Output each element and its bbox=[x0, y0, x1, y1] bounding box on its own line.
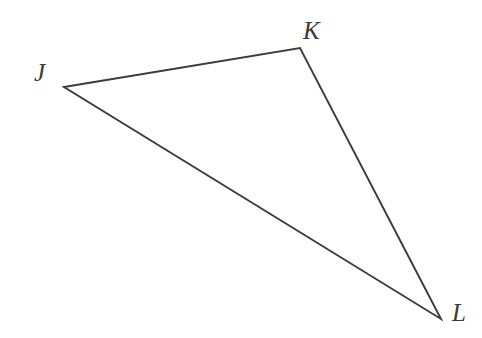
triangle-figure: J K L bbox=[0, 0, 482, 338]
triangle-drawing bbox=[0, 0, 482, 338]
vertex-label-l: L bbox=[452, 300, 466, 325]
vertex-label-j: J bbox=[34, 60, 45, 85]
triangle-shape bbox=[64, 48, 441, 319]
vertex-label-k: K bbox=[303, 18, 320, 43]
